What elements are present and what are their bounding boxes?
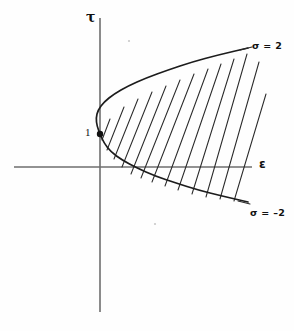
sigma-lower-curve	[100, 134, 248, 202]
paper-speck	[154, 223, 156, 225]
sigma-lower-label: σ = –2	[250, 208, 285, 218]
paper-speck	[128, 40, 130, 42]
vertex-value-label: 1	[85, 127, 91, 138]
diagram-canvas	[0, 0, 294, 331]
sigma-upper-curve	[96, 48, 248, 134]
hatch-line	[152, 74, 194, 182]
figure-root: τ ε 1 σ = 2 σ = –2	[0, 0, 294, 331]
hatch-line	[234, 94, 266, 201]
sigma-upper-label: σ = 2	[252, 41, 282, 51]
epsilon-axis-label: ε	[259, 158, 266, 170]
hatch-line	[141, 80, 180, 178]
hatch-line	[102, 119, 110, 140]
hatch-line	[107, 107, 124, 150]
hatch-line	[165, 69, 208, 186]
tau-axis-label: τ	[86, 10, 95, 24]
right-end-tick-top	[240, 47, 252, 50]
hatch-line	[220, 62, 259, 199]
hatch-group	[102, 54, 266, 201]
vertex-dot	[97, 131, 103, 137]
hatch-line	[122, 92, 152, 167]
hatch-line	[114, 99, 138, 159]
